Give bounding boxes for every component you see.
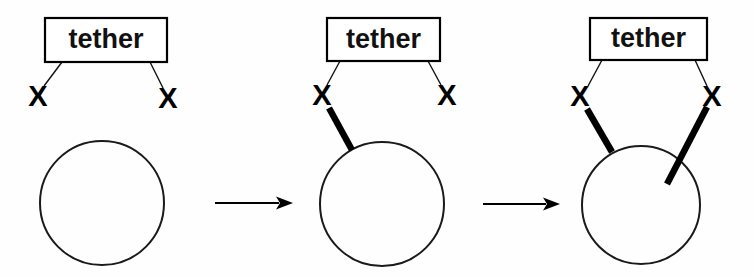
arrow-2 xyxy=(483,198,560,211)
panels-layer: tetherXXtetherXXtetherXX xyxy=(28,18,722,266)
attachment-bar-right xyxy=(667,107,707,184)
tether-box-label: tether xyxy=(68,24,144,54)
tether-diagram-canvas: tetherXXtetherXXtetherXX xyxy=(0,0,754,276)
tether-box-label: tether xyxy=(346,24,422,54)
panel-2: tetherXX xyxy=(312,18,457,266)
x-mark-left: X xyxy=(312,79,332,111)
arrows-layer xyxy=(215,197,560,211)
attachment-bar-left xyxy=(587,109,612,152)
x-mark-right: X xyxy=(437,79,457,111)
vesicle-circle xyxy=(320,142,444,266)
vesicle-circle xyxy=(582,146,700,264)
tether-box-label: tether xyxy=(611,23,687,53)
x-mark-right: X xyxy=(702,80,722,112)
arrow-1 xyxy=(215,197,293,210)
x-mark-left: X xyxy=(28,80,48,112)
vesicle-circle xyxy=(40,141,164,265)
attachment-bar-left xyxy=(329,108,352,150)
x-mark-left: X xyxy=(570,80,590,112)
x-mark-right: X xyxy=(158,82,178,114)
panel-1: tetherXX xyxy=(28,18,178,265)
diagram-root: tetherXXtetherXXtetherXX xyxy=(0,0,754,276)
tether-connector-line-1 xyxy=(588,60,602,86)
panel-3: tetherXX xyxy=(570,18,722,264)
